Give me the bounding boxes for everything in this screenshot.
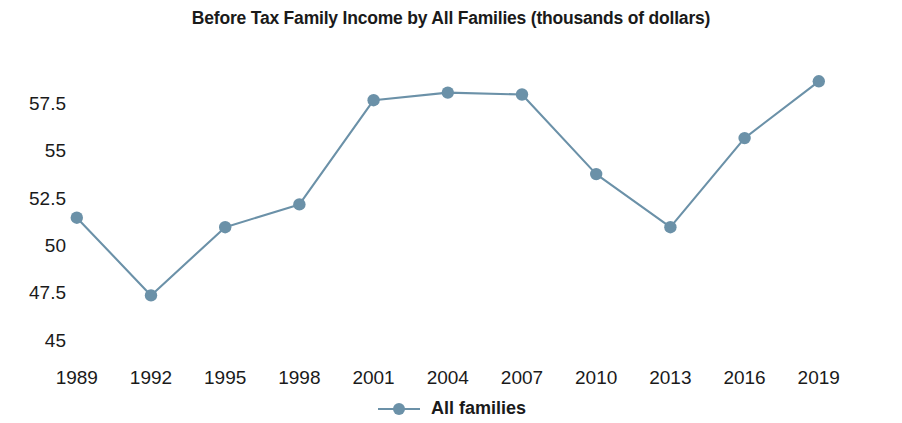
data-point-marker: [738, 132, 750, 144]
data-point-marker: [71, 212, 83, 224]
data-point-marker: [516, 88, 528, 100]
legend-label: All families: [431, 398, 526, 419]
data-point-marker: [590, 168, 602, 180]
series-line-all-families: [77, 81, 819, 295]
data-point-marker: [442, 86, 454, 98]
plot-area: [0, 0, 902, 423]
legend: All families: [0, 398, 902, 419]
data-point-marker: [664, 221, 676, 233]
legend-marker-icon: [376, 402, 422, 416]
data-point-marker: [219, 221, 231, 233]
data-point-marker: [367, 94, 379, 106]
data-point-marker: [813, 75, 825, 87]
chart-container: Before Tax Family Income by All Families…: [0, 0, 902, 423]
data-point-marker: [145, 289, 157, 301]
data-point-marker: [293, 198, 305, 210]
